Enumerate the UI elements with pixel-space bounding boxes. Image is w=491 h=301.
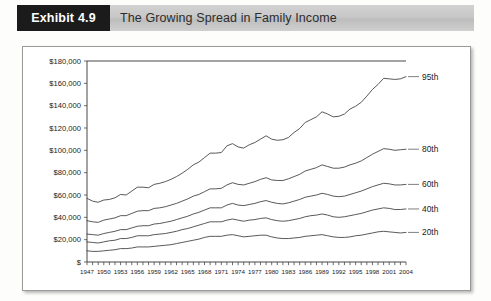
series-line-60th	[87, 183, 406, 235]
x-axis-label: 2001	[382, 268, 396, 275]
x-axis-label: 1977	[248, 268, 262, 275]
figure-root: Exhibit 4.9 The Growing Spread in Family…	[0, 0, 491, 301]
page-title: The Growing Spread in Family Income	[120, 5, 337, 31]
x-axis-label: 1947	[80, 268, 94, 275]
x-axis-label: 1971	[214, 268, 228, 275]
y-axis-label: $140,000	[49, 101, 81, 110]
x-axis-label: 1998	[366, 268, 380, 275]
x-axis-label: 1959	[147, 268, 161, 275]
chart-canvas: $$20,000$40,000$60,000$80,000$100,000$12…	[23, 47, 470, 290]
y-axis-label: $100,000	[49, 146, 81, 155]
x-axis-label: 1965	[181, 268, 195, 275]
y-axis-label: $40,000	[54, 213, 81, 222]
y-axis-label: $120,000	[49, 124, 81, 133]
x-axis-label: 1986	[298, 268, 312, 275]
series-line-40th	[87, 208, 406, 243]
x-axis-label: 1962	[164, 268, 178, 275]
y-axis-label: $	[77, 258, 82, 267]
series-line-95th	[87, 77, 406, 203]
x-axis-label: 1992	[332, 268, 346, 275]
series-label-80th: 80th	[422, 144, 439, 154]
x-axis-label: 1968	[198, 268, 212, 275]
y-axis-label: $60,000	[54, 191, 81, 200]
figure-frame: $$20,000$40,000$60,000$80,000$100,000$12…	[22, 46, 471, 291]
series-label-40th: 40th	[422, 204, 439, 214]
x-axis-label: 1974	[231, 268, 245, 275]
exhibit-tag: Exhibit 4.9	[17, 5, 110, 31]
series-line-80th	[87, 149, 406, 223]
series-line-20th	[87, 231, 406, 251]
y-axis-label: $80,000	[54, 168, 81, 177]
series-label-95th: 95th	[422, 72, 439, 82]
series-label-60th: 60th	[422, 179, 439, 189]
x-axis-label: 1995	[349, 268, 363, 275]
x-axis-label: 1980	[265, 268, 279, 275]
y-axis-label: $160,000	[49, 79, 81, 88]
x-axis-label: 1953	[114, 268, 128, 275]
chart-axes	[87, 61, 406, 262]
x-axis-label: 1950	[97, 268, 111, 275]
x-axis-label: 1983	[282, 268, 296, 275]
line-chart: $$20,000$40,000$60,000$80,000$100,000$12…	[23, 47, 470, 290]
x-axis-label: 1989	[315, 268, 329, 275]
x-axis-label: 2004	[399, 268, 413, 275]
y-axis-label: $180,000	[49, 57, 81, 66]
series-label-20th: 20th	[422, 227, 439, 237]
x-axis-label: 1956	[130, 268, 144, 275]
y-axis-label: $20,000	[54, 235, 81, 244]
